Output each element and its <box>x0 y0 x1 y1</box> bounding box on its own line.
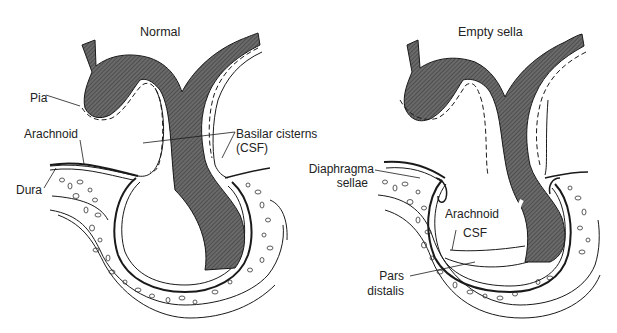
label-basilar-cisterns-csf: (CSF) <box>236 142 268 155</box>
label-pia: Pia <box>30 92 47 105</box>
panel-title-empty-sella: Empty sella <box>458 26 523 39</box>
pituitary-stalk-empty-sella <box>404 34 584 262</box>
label-diaphragma-sellae-2: sellae <box>294 177 368 190</box>
label-dura: Dura <box>16 184 42 197</box>
label-diaphragma-sellae: Diaphragma <box>294 163 374 176</box>
normal-panel <box>44 33 287 318</box>
label-pars-distalis-2: distalis <box>354 285 404 298</box>
label-pars-distalis: Pars <box>364 270 404 283</box>
empty-sella-panel <box>375 34 600 318</box>
label-csf: CSF <box>463 227 487 240</box>
label-arachnoid-normal: Arachnoid <box>24 128 78 141</box>
panel-title-normal: Normal <box>140 26 180 39</box>
label-basilar-cisterns: Basilar cisterns <box>236 128 317 141</box>
label-arachnoid-empty: Arachnoid <box>445 208 499 221</box>
diagram-stage: Normal Pia Arachnoid Dura Basilar cister… <box>0 0 617 333</box>
